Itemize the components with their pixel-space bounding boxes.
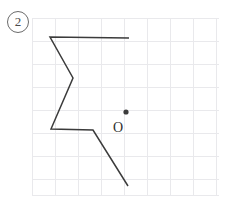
filled-dot-icon [123, 109, 128, 114]
circled-number-icon: 2 [7, 11, 29, 33]
figure-panel: 2 O [0, 0, 234, 210]
marker-layer [123, 109, 128, 114]
polyline-layer [50, 37, 129, 186]
origin-label: O [113, 121, 123, 135]
figure-canvas [0, 0, 234, 210]
polyline-path [50, 37, 129, 186]
